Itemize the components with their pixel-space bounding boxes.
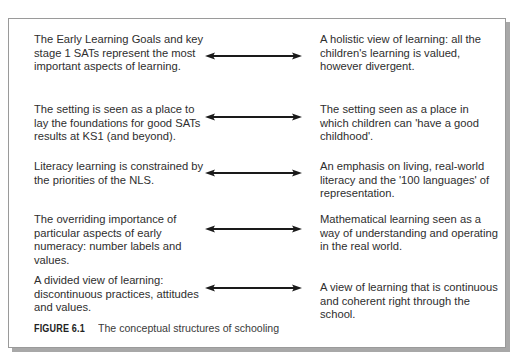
figure-caption: FIGURE 6.1The conceptual structures of s… <box>34 322 295 334</box>
double-arrow-icon <box>205 224 302 234</box>
double-arrow-icon <box>205 168 302 178</box>
figure-frame: The Early Learning Goals and key stage 1… <box>8 18 506 348</box>
left-concept-2: The setting is seen as a place to lay th… <box>34 103 204 144</box>
right-concept-1: A holistic view of learning: all the chi… <box>320 33 500 74</box>
left-concept-1: The Early Learning Goals and key stage 1… <box>34 33 204 74</box>
left-concept-3: Literacy learning is constrained by the … <box>34 160 204 187</box>
left-concept-4: The overriding importance of particular … <box>34 213 204 267</box>
right-concept-2: The setting seen as a place in which chi… <box>320 103 500 144</box>
right-concept-3: An emphasis on living, real-world litera… <box>320 160 500 201</box>
left-concept-5: A divided view of learning: discontinuou… <box>34 274 204 315</box>
figure-label: FIGURE 6.1 <box>34 323 85 334</box>
double-arrow-icon <box>205 112 302 122</box>
double-arrow-icon <box>205 51 302 61</box>
right-concept-4: Mathematical learning seen as a way of u… <box>320 213 500 254</box>
double-arrow-icon <box>205 283 302 293</box>
figure-title: The conceptual structures of schooling <box>98 322 279 334</box>
right-concept-5: A view of learning that is continuous an… <box>320 281 500 322</box>
